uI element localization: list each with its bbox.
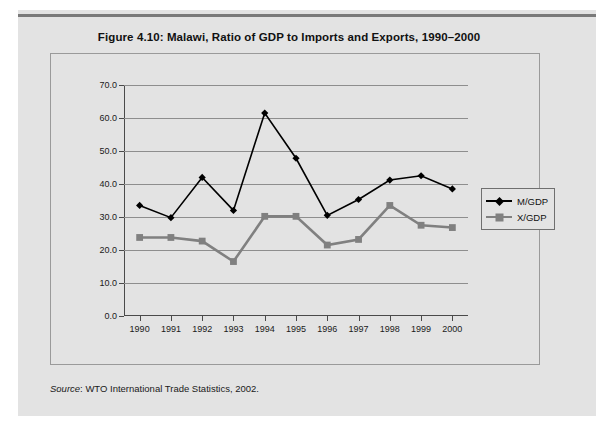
source-note: Source: WTO International Trade Statisti…: [50, 383, 259, 394]
source-text: : WTO International Trade Statistics, 20…: [80, 383, 259, 394]
x-axis-tick-mark: [265, 316, 266, 321]
diamond-marker-icon: [495, 197, 504, 206]
x-axis-tick-label: 1995: [286, 324, 306, 334]
y-axis-tick-label: 10.0: [99, 278, 117, 288]
square-marker-icon: [495, 213, 504, 222]
x-axis-tick-label: 1992: [192, 324, 212, 334]
y-axis-tick-label: 50.0: [99, 146, 117, 156]
x-axis-tick-label: 1994: [255, 324, 275, 334]
data-point-marker: [136, 202, 143, 209]
figure-page: Figure 4.10: Malawi, Ratio of GDP to Imp…: [0, 0, 605, 440]
x-axis-tick-label: 2000: [442, 324, 462, 334]
x-axis-tick-mark: [359, 316, 360, 321]
x-axis-tick-mark: [140, 316, 141, 321]
x-axis-tick-label: 1991: [161, 324, 181, 334]
legend-label-xgdp: X/GDP: [517, 212, 547, 223]
y-axis-tick-label: 60.0: [99, 113, 117, 123]
data-point-marker: [386, 176, 393, 183]
x-axis-tick-label: 1996: [317, 324, 337, 334]
data-point-marker: [324, 242, 331, 249]
x-axis-tick-mark: [296, 316, 297, 321]
x-axis-tick-mark: [421, 316, 422, 321]
data-point-marker: [449, 224, 456, 231]
source-label: Source: [50, 383, 80, 394]
legend-label-mgdp: M/GDP: [517, 196, 548, 207]
y-axis-tick-mark: [119, 316, 124, 317]
y-axis-tick-label: 0.0: [104, 311, 117, 321]
page-title: Figure 4.10: Malawi, Ratio of GDP to Imp…: [0, 31, 578, 43]
legend-item-mgdp: M/GDP: [486, 193, 548, 209]
data-point-marker: [449, 185, 456, 192]
y-axis-tick-label: 40.0: [99, 179, 117, 189]
data-point-marker: [355, 196, 362, 203]
x-axis-tick-label: 1999: [411, 324, 431, 334]
y-axis-tick-label: 70.0: [99, 80, 117, 90]
x-axis-tick-label: 1990: [130, 324, 150, 334]
top-divider-rule: [18, 14, 596, 17]
x-axis-tick-label: 1997: [349, 324, 369, 334]
data-point-marker: [199, 238, 206, 245]
x-axis-tick-mark: [327, 316, 328, 321]
y-axis-tick-label: 30.0: [99, 212, 117, 222]
data-point-marker: [168, 234, 175, 241]
data-point-marker: [418, 222, 425, 229]
data-point-marker: [293, 213, 300, 220]
data-point-marker: [230, 258, 237, 265]
series-line-mgdp: [140, 113, 453, 218]
series-canvas: [124, 85, 468, 316]
x-axis-tick-mark: [171, 316, 172, 321]
data-point-marker: [324, 212, 331, 219]
legend-swatch-mgdp: [486, 195, 512, 207]
data-point-marker: [417, 172, 424, 179]
x-axis-tick-mark: [390, 316, 391, 321]
chart-frame: 0.010.020.030.040.050.060.070.0 19901991…: [50, 53, 540, 365]
data-point-marker: [136, 234, 143, 241]
y-axis-tick-label: 20.0: [99, 245, 117, 255]
x-axis-tick-label: 1993: [223, 324, 243, 334]
x-axis-tick-label: 1998: [380, 324, 400, 334]
data-point-marker: [261, 213, 268, 220]
plot-area: 0.010.020.030.040.050.060.070.0 19901991…: [124, 85, 468, 316]
chart-legend: M/GDP X/GDP: [481, 188, 555, 230]
legend-item-xgdp: X/GDP: [486, 209, 548, 225]
x-axis-tick-mark: [452, 316, 453, 321]
legend-swatch-xgdp: [486, 211, 512, 223]
data-point-marker: [386, 202, 393, 209]
data-point-marker: [355, 236, 362, 243]
x-axis-tick-mark: [233, 316, 234, 321]
x-axis-tick-mark: [202, 316, 203, 321]
